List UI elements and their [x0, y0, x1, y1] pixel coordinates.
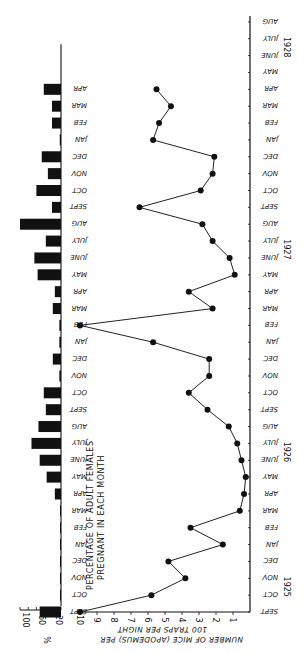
- pregnancy-bar: [40, 607, 61, 618]
- value-tick-label: 6: [143, 617, 152, 622]
- bar-month-label: AUG: [71, 219, 88, 227]
- year-label: 1926: [282, 442, 291, 462]
- pregnancy-bar: [44, 84, 61, 95]
- pregnancy-bar: [48, 168, 61, 179]
- month-label: SEPT: [260, 202, 278, 210]
- bar-chart-title: PERCENTAGE OF ADULT FEMALES: [86, 440, 95, 590]
- value-tick-label: 8: [109, 617, 118, 622]
- data-point: [220, 542, 226, 548]
- value-tick-label: 3: [194, 617, 203, 622]
- month-label: OCT: [263, 186, 278, 194]
- month-label: MAR: [262, 506, 278, 514]
- data-point: [186, 289, 192, 295]
- month-label: FEB: [265, 320, 278, 328]
- data-point: [206, 373, 212, 379]
- bar-month-label: MAY: [71, 270, 87, 278]
- data-point: [77, 609, 83, 615]
- bar-month-label: SEPT: [69, 405, 87, 413]
- month-label: DEC: [263, 152, 278, 160]
- bar-month-label: JULY: [72, 236, 89, 244]
- pregnancy-bar: [42, 151, 61, 162]
- month-label: FEB: [265, 523, 278, 531]
- value-tick-label: 2: [211, 617, 220, 622]
- month-label: DEC: [263, 556, 278, 564]
- data-point: [165, 558, 171, 564]
- bar-month-label: MAY: [71, 472, 87, 480]
- pregnancy-bar: [20, 219, 61, 230]
- value-tick-label: 1: [228, 617, 237, 622]
- data-point: [148, 592, 154, 598]
- month-label: AUG: [262, 422, 279, 430]
- month-label: APR: [264, 84, 279, 92]
- data-point: [227, 255, 233, 261]
- percent-tick-label: 100: [21, 612, 30, 627]
- data-point: [210, 306, 216, 312]
- month-label: APR: [264, 287, 279, 295]
- data-point: [210, 171, 216, 177]
- pregnancy-bar: [34, 252, 61, 263]
- month-axis-labels: SEPTOCTNOVDECJANFEBMARAPRMAYJUNEJULYAUGS…: [260, 17, 280, 615]
- month-label: JUNE: [261, 51, 280, 59]
- bar-month-label: APR: [73, 287, 88, 295]
- pregnancy-bar: [60, 505, 61, 516]
- bar-month-label: JAN: [74, 135, 89, 143]
- pregnancy-bar: [60, 134, 61, 145]
- data-point: [150, 339, 156, 345]
- value-tick-label: 10: [75, 615, 84, 625]
- month-label: JULY: [263, 34, 280, 42]
- data-point: [234, 440, 240, 446]
- month-label: MAY: [262, 270, 278, 278]
- month-label: JULY: [263, 438, 280, 446]
- month-label: NOV: [261, 371, 278, 379]
- bar-month-label: JUNE: [70, 253, 89, 261]
- year-label: 1925: [282, 577, 291, 597]
- pregnancy-bar: [38, 421, 61, 432]
- data-point: [211, 154, 217, 160]
- month-label: JAN: [265, 337, 280, 345]
- bar-month-label: AUG: [71, 422, 88, 430]
- data-point: [168, 103, 174, 109]
- data-point: [137, 204, 143, 210]
- pregnancy-bar: [60, 590, 61, 601]
- pregnancy-bar: [47, 472, 61, 483]
- pregnancy-bar: [55, 488, 61, 499]
- value-tick-label: 7: [126, 617, 135, 622]
- bar-month-label: DEC: [72, 152, 87, 160]
- year-labels: 1925192619271928: [282, 37, 291, 597]
- bar-month-label: MAR: [71, 304, 87, 312]
- data-point: [156, 120, 162, 126]
- month-label: NOV: [261, 169, 278, 177]
- bar-month-label: OCT: [72, 590, 87, 598]
- chart-canvas: 1006020% SEPTOCTNOVDECJANFEBMARAPRMAYJUN…: [0, 0, 305, 653]
- month-label: FEB: [265, 118, 278, 126]
- bar-month-label: APR: [73, 84, 88, 92]
- pregnancy-bar: [46, 404, 61, 415]
- data-point: [150, 137, 156, 143]
- pregnancy-bar: [60, 539, 61, 550]
- rotated-dual-chart: 1006020% SEPTOCTNOVDECJANFEBMARAPRMAYJUN…: [0, 0, 305, 653]
- pregnancy-bar: [60, 522, 61, 533]
- bar-month-label: OCT: [72, 186, 87, 194]
- line-axis-title: NUMBER OF MICE (APODEMUS) PER: [100, 635, 243, 644]
- bar-chart-title-line-2: PREGNANT IN EACH MONTH: [97, 455, 106, 580]
- data-point: [182, 575, 188, 581]
- bar-month-label: SEPT: [69, 202, 87, 210]
- bar-month-label: FEB: [74, 118, 87, 126]
- month-label: JAN: [265, 540, 280, 548]
- year-label: 1928: [282, 37, 291, 57]
- month-label: OCT: [263, 388, 278, 396]
- bar-month-label: MAR: [71, 101, 87, 109]
- pregnancy-bar: [46, 236, 61, 247]
- percent-unit-label: %: [42, 636, 51, 644]
- month-label: AUG: [262, 219, 279, 227]
- month-label: NOV: [261, 573, 278, 581]
- data-point: [188, 525, 194, 531]
- pregnancy-bar: [59, 370, 61, 381]
- data-point: [239, 457, 245, 463]
- month-label: DEC: [263, 354, 278, 362]
- month-label: MAY: [262, 472, 278, 480]
- month-label: SEPT: [260, 405, 278, 413]
- bar-month-label: NOV: [70, 169, 87, 177]
- bar-month-label: FEB: [74, 523, 87, 531]
- month-label: MAY: [262, 67, 278, 75]
